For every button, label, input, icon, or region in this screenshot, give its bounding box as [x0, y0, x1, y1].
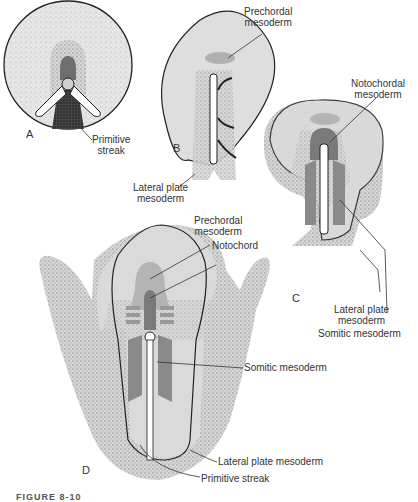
panel-label-a: A	[26, 128, 33, 140]
panel-d	[39, 225, 269, 480]
label-b-lateral-plate: Lateral platemesoderm	[133, 182, 188, 204]
label-b-prechordal: Prechordalmesoderm	[244, 6, 292, 28]
label-d-prechordal: Prechordalmesoderm	[194, 215, 242, 237]
label-c-notochordal: Notochordalmesoderm	[351, 78, 405, 100]
label-a-primitive-streak: Primitivestreak	[92, 134, 130, 156]
figure-caption: FIGURE 8-10	[16, 492, 82, 502]
label-d-primitive-streak: Primitive streak	[201, 473, 269, 484]
panel-a	[4, 1, 132, 140]
label-c-somitic: Somitic mesoderm	[318, 328, 401, 339]
panel-c	[264, 98, 387, 312]
label-d-somitic: Somitic mesoderm	[244, 362, 327, 373]
panel-b	[162, 11, 275, 188]
label-d-notochord: Notochord	[212, 240, 258, 251]
panel-label-d: D	[82, 464, 90, 476]
panel-label-b: B	[173, 142, 180, 154]
label-d-lateral-plate: Lateral plate mesoderm	[218, 456, 323, 467]
panel-label-c: C	[292, 292, 300, 304]
label-c-lateral-plate: Lateral platemesoderm	[334, 304, 389, 326]
